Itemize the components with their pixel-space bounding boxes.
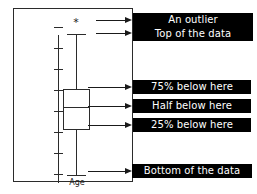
y-tick-mark [54,174,63,175]
arrow-shaft [88,125,125,126]
arrow-shaft [88,171,125,172]
y-tick-mark [54,132,63,133]
upper-whisker-stem [76,34,77,89]
y-axis-spine [58,35,59,183]
y-tick-mark [54,27,63,28]
arrow-to-q3 [88,84,132,91]
arrow-head [125,103,132,109]
lower-whisker-stem [76,130,77,175]
median-line [63,107,90,108]
callout-top-of-the-data: Top of the data [133,27,253,41]
arrow-head [125,84,132,90]
arrow-head [125,30,132,36]
x-axis-label: Age [57,178,97,187]
arrow-shaft [88,87,125,88]
arrow-head [125,122,132,128]
callout-bottom-of-the-data: Bottom of the data [132,164,252,178]
callout-half-below: Half below here [133,99,251,113]
arrow-to-q1 [88,122,132,129]
y-tick-mark [54,69,63,70]
arrow-head [125,168,132,174]
arrow-shaft [96,33,125,34]
y-tick-mark [54,90,63,91]
arrow-head [125,17,132,23]
lower-whisker-cap [67,175,86,176]
arrow-to-outlier [96,17,132,24]
callout-25-percent-below: 25% below here [133,118,251,132]
arrow-shaft [88,106,125,107]
arrow-shaft [96,20,125,21]
y-tick-mark [54,153,63,154]
callout-75-percent-below: 75% below here [133,80,251,94]
arrow-to-upper-whisker [96,30,132,37]
callout-an-outlier: An outlier [133,13,253,27]
y-tick-mark [54,48,63,49]
arrow-to-median [88,103,132,110]
boxplot-figure: 70 60 50 40 30 20 10 0 [0,0,257,194]
box-iqr [63,89,90,130]
arrow-to-lower-whisker [88,168,132,175]
outlier-marker: * [70,17,82,28]
y-tick-mark [54,111,63,112]
